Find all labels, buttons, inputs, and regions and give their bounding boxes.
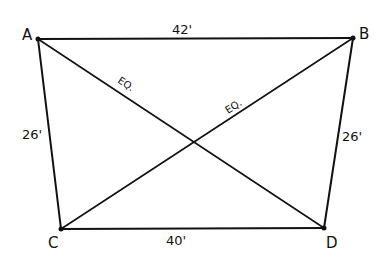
diagonal-bc-label: EQ. bbox=[223, 97, 244, 116]
vertex-b-label: B bbox=[359, 25, 369, 43]
side-bd-length: 26' bbox=[342, 129, 362, 144]
diagonal-bc bbox=[61, 38, 353, 229]
quadrilateral-diagram: A B C D 42' 40' 26' 26' EQ. EQ. bbox=[0, 0, 383, 271]
vertex-a-dot bbox=[36, 37, 41, 42]
side-ac-length: 26' bbox=[22, 127, 42, 142]
vertex-c-label: C bbox=[48, 234, 58, 252]
diagonal-ad-label: EQ. bbox=[116, 74, 137, 93]
side-ab bbox=[38, 38, 353, 39]
side-cd-length: 40' bbox=[166, 233, 186, 248]
vertex-b-dot bbox=[351, 36, 356, 41]
vertex-a-label: A bbox=[22, 26, 33, 44]
vertex-c-dot bbox=[59, 227, 64, 232]
vertex-d-label: D bbox=[326, 234, 338, 252]
diagonal-ad bbox=[38, 39, 324, 228]
vertex-d-dot bbox=[322, 226, 327, 231]
side-ab-length: 42' bbox=[172, 22, 192, 37]
side-cd bbox=[61, 228, 324, 229]
